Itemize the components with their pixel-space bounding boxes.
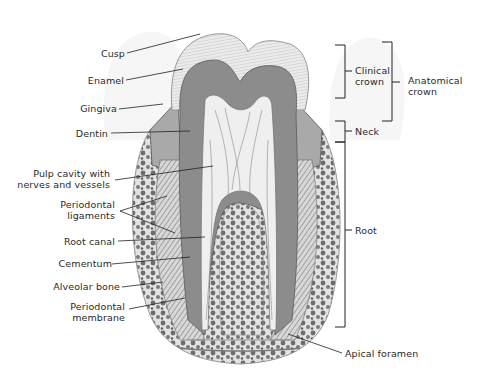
label-periodontal-membrane: Periodontal membrane bbox=[70, 301, 125, 323]
label-apical-foramen: Apical foramen bbox=[345, 348, 418, 359]
label-cementum: Cementum bbox=[59, 258, 112, 269]
label-pulp-cavity: Pulp cavity with nerves and vessels bbox=[17, 168, 110, 190]
label-cc-line2: crown bbox=[355, 76, 390, 87]
label-pl-line2: ligaments bbox=[60, 210, 115, 221]
label-cc-line1: Clinical bbox=[355, 65, 390, 76]
label-dentin: Dentin bbox=[76, 128, 108, 139]
tooth-illustration bbox=[0, 0, 482, 384]
tooth-diagram: Cusp Enamel Gingiva Dentin Pulp cavity w… bbox=[0, 0, 482, 384]
label-cusp: Cusp bbox=[101, 48, 125, 59]
label-neck: Neck bbox=[355, 126, 379, 137]
label-root: Root bbox=[355, 225, 377, 236]
label-periodontal-ligaments: Periodontal ligaments bbox=[60, 199, 115, 221]
label-alveolar-bone: Alveolar bone bbox=[53, 281, 120, 292]
label-pm-line2: membrane bbox=[70, 312, 125, 323]
label-anatomical-crown: Anatomical crown bbox=[408, 75, 462, 97]
label-pulp-line2: nerves and vessels bbox=[17, 179, 110, 190]
label-gingiva: Gingiva bbox=[80, 103, 117, 114]
label-enamel: Enamel bbox=[88, 75, 124, 86]
label-pl-line1: Periodontal bbox=[60, 199, 115, 210]
label-clinical-crown: Clinical crown bbox=[355, 65, 390, 87]
label-pulp-line1: Pulp cavity with bbox=[17, 168, 110, 179]
label-pm-line1: Periodontal bbox=[70, 301, 125, 312]
label-root-canal: Root canal bbox=[64, 236, 115, 247]
label-ac-line2: crown bbox=[408, 86, 462, 97]
label-ac-line1: Anatomical bbox=[408, 75, 462, 86]
